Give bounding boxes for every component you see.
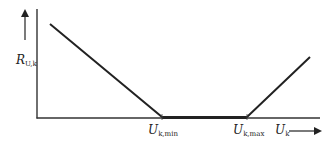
resistance-voltage-diagram: RU,k Uk,min Uk,max Uk	[0, 0, 335, 147]
resistance-curve	[50, 24, 310, 117]
x-axis-label: Uk	[275, 123, 290, 138]
y-axis-label: RU,k	[15, 53, 38, 68]
diagram-canvas: RU,k Uk,min Uk,max Uk	[0, 0, 335, 147]
marker-label-max: Uk,max	[233, 123, 264, 138]
marker-label-min: Uk,min	[148, 123, 178, 138]
